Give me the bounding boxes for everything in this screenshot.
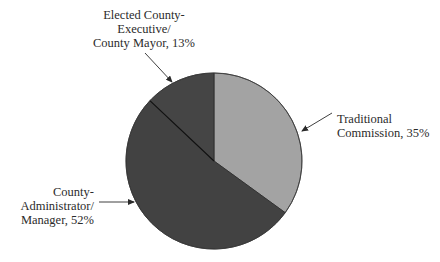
label-elected-line1: Elected County- [84,8,204,22]
label-elected-county-executive: Elected County- Executive/ County Mayor,… [84,8,204,50]
label-elected-line2: Executive/ [84,22,204,36]
pie-chart: Elected County- Executive/ County Mayor,… [0,0,440,262]
arrow-traditional [302,113,332,131]
arrow-elected [145,53,172,82]
label-traditional-line1: Traditional [337,112,429,126]
label-admin-line2: Administrator/ [10,199,94,213]
label-admin-line1: County- [10,185,94,199]
label-elected-line3: County Mayor, 13% [84,36,204,50]
label-traditional-line2: Commission, 35% [337,126,429,140]
label-admin-line3: Manager, 52% [10,213,94,227]
label-county-administrator: County- Administrator/ Manager, 52% [10,185,94,227]
label-traditional-commission: Traditional Commission, 35% [337,112,429,140]
